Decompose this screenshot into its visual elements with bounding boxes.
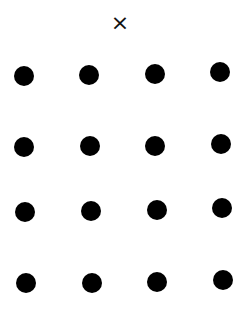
dot-r2-c4 [211,134,231,154]
dot-r3-c3 [147,200,167,220]
dot-r2-c1 [14,137,34,157]
dot-r1-c2 [79,65,99,85]
dot-r1-c1 [14,66,34,86]
dot-r2-c3 [145,136,165,156]
dot-r1-c4 [210,62,230,82]
dot-r3-c4 [212,198,232,218]
dot-r4-c2 [82,273,102,293]
dot-r2-c2 [80,136,100,156]
dot-r1-c3 [145,64,165,84]
x-mark-icon: × [110,12,130,34]
dot-r4-c3 [147,272,167,292]
dot-r3-c1 [15,202,35,222]
dot-r4-c4 [213,270,233,290]
dot-r3-c2 [81,201,101,221]
dot-r4-c1 [16,273,36,293]
